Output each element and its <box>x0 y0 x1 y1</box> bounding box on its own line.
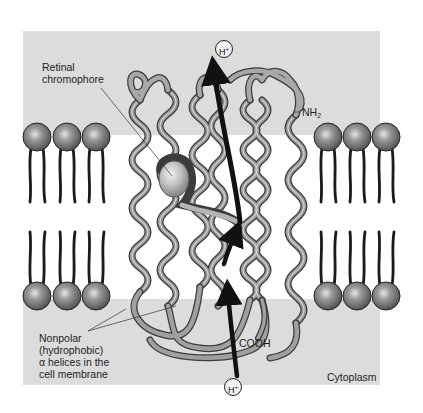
proton-released-icon: H+ <box>215 40 233 58</box>
bacteriorhodopsin-diagram: Retinal chromophore Nonpolar (hydrophobi… <box>0 0 423 413</box>
phospholipids-left <box>23 123 110 310</box>
retinal-chromophore-label: Retinal chromophore <box>42 61 104 85</box>
nh2-terminus-label: NH2 <box>302 106 321 122</box>
nonpolar-helices-label: Nonpolar (hydrophobic) α helices in the … <box>39 332 109 380</box>
cytoplasm-label: Cytoplasm <box>327 371 377 383</box>
proton-taken-up-icon: H+ <box>224 378 242 396</box>
phospholipids-right <box>314 123 400 310</box>
cooh-terminus-label: COOH <box>239 337 271 349</box>
